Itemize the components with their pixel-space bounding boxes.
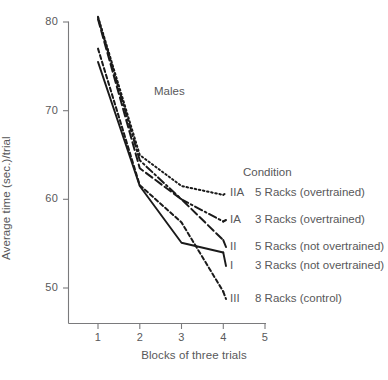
x-tick-label-4: 4 (213, 331, 233, 343)
legend-code: I (230, 259, 250, 271)
series-line-ii (98, 19, 223, 240)
legend-leader-ia (223, 220, 226, 222)
y-tick-label-80: 80 (36, 15, 58, 27)
legend-code: III (230, 292, 250, 304)
y-axis-ticks (63, 22, 69, 288)
data-series-layer (98, 17, 223, 292)
y-tick-label-60: 60 (36, 192, 58, 204)
legend-item-ii[interactable]: II5 Racks (not overtrained) (230, 240, 384, 252)
legend-title: Condition (243, 166, 292, 178)
x-tick-label-3: 3 (172, 331, 192, 343)
x-tick-label-5: 5 (255, 331, 275, 343)
chart-container: 80 70 60 50 1 2 3 4 5 Average time (sec.… (0, 0, 388, 380)
legend-description: 3 Racks (not overtrained) (255, 259, 384, 271)
legend-description: 3 Racks (overtrained) (255, 213, 365, 225)
y-tick-label-50: 50 (36, 281, 58, 293)
legend-item-i[interactable]: I3 Racks (not overtrained) (230, 259, 384, 271)
legend-description: 8 Racks (control) (255, 292, 342, 304)
males-annotation: Males (154, 85, 185, 97)
x-tick-label-2: 2 (130, 331, 150, 343)
legend-description: 5 Racks (overtrained) (255, 186, 365, 198)
legend-code: IA (230, 213, 250, 225)
legend-item-iia[interactable]: IIA5 Racks (overtrained) (230, 186, 365, 198)
legend-item-iii[interactable]: III8 Racks (control) (230, 292, 342, 304)
y-axis-title: Average time (sec.)/trial (0, 136, 12, 260)
x-tick-label-1: 1 (88, 331, 108, 343)
legend-code: IIA (230, 186, 250, 198)
legend-swatch-layer (223, 193, 226, 299)
legend-code: II (230, 240, 250, 252)
y-tick-label-70: 70 (36, 104, 58, 116)
legend-leader-iii (223, 292, 226, 299)
series-line-iia (98, 17, 223, 195)
legend-leader-iia (223, 193, 226, 195)
legend-item-ia[interactable]: IA3 Racks (overtrained) (230, 213, 365, 225)
legend-leader-i (223, 253, 226, 266)
legend-description: 5 Racks (not overtrained) (255, 240, 384, 252)
x-axis-title: Blocks of three trials (0, 349, 388, 361)
x-axis-ticks (98, 324, 265, 330)
legend-leader-ii (223, 240, 226, 247)
